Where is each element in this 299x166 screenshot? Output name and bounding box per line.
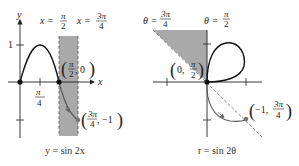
svg-text:2: 2 (191, 70, 196, 80)
right-plot: θ = 3π 4 θ = π 2 ( 0, π 2 ) ( −1, 3π 4 )… (143, 9, 292, 156)
point-origin-right (204, 79, 209, 84)
line1-den: 4 (163, 19, 168, 29)
svg-text:−1,: −1, (255, 104, 268, 115)
point-pi-over-2 (56, 79, 61, 84)
point2-label-right: ( −1, 3π 4 ) (249, 99, 292, 122)
sine-curve-positive (20, 45, 59, 82)
svg-text:(: ( (81, 110, 87, 131)
svg-text:(: ( (61, 59, 67, 80)
vline1-num: π (61, 11, 66, 21)
svg-text:4: 4 (276, 110, 281, 120)
shaded-band (59, 36, 78, 136)
svg-text:4: 4 (90, 119, 95, 129)
left-plot: y x 1 π 4 x = π 2 x = 3π 4 ( π 2 , 0 ) (… (8, 9, 123, 156)
line1-num: 3π (160, 9, 171, 19)
vline2-den: 4 (99, 21, 104, 31)
svg-text:2: 2 (69, 69, 74, 79)
svg-text:): ) (117, 110, 123, 131)
point2-label: ( 3π 4 , −1 ) (81, 109, 123, 131)
point-neg1-3pi-over-4 (244, 117, 249, 122)
svg-text:, 0: , 0 (75, 64, 85, 75)
svg-text:π: π (69, 59, 74, 69)
svg-text:): ) (198, 60, 204, 81)
svg-text:π: π (191, 59, 196, 69)
right-caption: r = sin 2θ (198, 145, 236, 156)
svg-text:3π: 3π (273, 99, 284, 109)
line1-lhs: θ = (143, 15, 157, 26)
vline1-den: 2 (61, 21, 66, 31)
point-origin (17, 79, 22, 84)
x-tick-num: π (36, 87, 41, 97)
x-tick-den: 4 (37, 98, 42, 108)
y-axis-label: y (16, 9, 22, 20)
svg-text:, −1: , −1 (97, 114, 113, 125)
vline2-num: 3π (96, 11, 107, 21)
line2-lhs: θ = (204, 15, 218, 26)
figure: y x 1 π 4 x = π 2 x = 3π 4 ( π 2 , 0 ) (… (0, 0, 299, 166)
svg-text:): ) (89, 59, 95, 80)
y-tick-label: 1 (8, 39, 13, 50)
rose-petal (207, 43, 244, 82)
x-axis-label: x (97, 76, 103, 87)
svg-text:): ) (286, 101, 292, 122)
svg-text:0,: 0, (177, 64, 185, 75)
vline1-lhs: x = (39, 15, 54, 26)
line2-num: π (224, 9, 229, 19)
svg-text:3π: 3π (87, 109, 98, 119)
svg-text:(: ( (170, 60, 176, 81)
vline2-lhs: x = (76, 15, 91, 26)
line2-den: 2 (224, 19, 229, 29)
point-3pi-over-4 (76, 118, 81, 123)
left-caption: y = sin 2x (45, 145, 85, 156)
direction-arrow-right (218, 112, 224, 118)
